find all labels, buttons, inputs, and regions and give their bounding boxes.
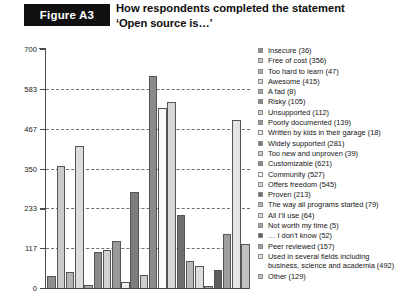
legend-item-label: Widely supported (281) (268, 139, 344, 148)
y-axis-label: 700 (24, 45, 37, 54)
legend-item-label: Awesome (415) (268, 77, 320, 86)
legend-swatch-icon (258, 182, 263, 187)
legend-item: … I don’t know (52) (258, 231, 399, 240)
legend-swatch-icon (258, 161, 263, 166)
legend-item-label: All I’ll use (64) (268, 211, 314, 220)
bar (84, 285, 93, 288)
y-axis-tick (40, 49, 46, 50)
legend-item: All I’ll use (64) (258, 211, 399, 220)
bar (94, 252, 103, 288)
legend-swatch-icon (258, 69, 263, 74)
legend-item-label: Free of cost (356) (268, 56, 326, 65)
legend-item-label: Unsupported (112) (268, 108, 329, 117)
figure-title-line-1: How respondents completed the statement (116, 1, 394, 16)
legend-item: Widely supported (281) (258, 139, 399, 148)
legend-item: Not worth my time (5) (258, 221, 399, 230)
legend-swatch-icon (258, 274, 263, 279)
bar (140, 275, 149, 288)
legend-item: Proven (213) (258, 190, 399, 199)
bar (177, 215, 186, 288)
legend-swatch-icon (258, 192, 263, 197)
legend-item-label: Written by kids in their garage (18) (268, 128, 381, 137)
legend-item: Other (129) (258, 272, 399, 281)
legend-item: Community (527) (258, 170, 399, 179)
chart-legend: Insecure (36)Free of cost (356)Too hard … (258, 46, 399, 282)
legend-item: Free of cost (356) (258, 56, 399, 65)
legend-swatch-icon (258, 244, 263, 249)
y-axis-tick (40, 288, 46, 289)
legend-swatch-icon (258, 172, 263, 177)
legend-item-label: Other (129) (268, 272, 306, 281)
legend-item: Too hard to learn (47) (258, 67, 399, 76)
legend-item: Written by kids in their garage (18) (258, 128, 399, 137)
legend-item: Too new and unproven (39) (258, 149, 399, 158)
legend-swatch-icon (258, 213, 263, 218)
legend-swatch-icon (258, 202, 263, 207)
legend-swatch-icon (258, 151, 263, 156)
legend-item-label: Not worth my time (5) (268, 221, 339, 230)
bar (186, 261, 195, 288)
legend-item: Risky (105) (258, 97, 399, 106)
legend-item-label: Too new and unproven (39) (268, 149, 358, 158)
legend-swatch-icon (258, 48, 263, 53)
figure-number-badge: Figure A3 (24, 4, 110, 26)
bar (195, 266, 204, 288)
y-axis-tick (40, 129, 46, 130)
legend-item: A fad (8) (258, 87, 399, 96)
legend-swatch-icon (258, 254, 263, 259)
legend-item-label: … I don’t know (52) (268, 231, 332, 240)
y-axis-label: 117 (25, 244, 37, 253)
bar (130, 192, 139, 288)
legend-item-label: The way all programs started (79) (268, 200, 379, 209)
legend-swatch-icon (258, 89, 263, 94)
legend-item-label: Insecure (36) (268, 46, 312, 55)
y-axis-tick (40, 89, 46, 90)
y-axis-label: 0 (33, 284, 37, 293)
legend-item-label: Proven (213) (268, 190, 311, 199)
legend-swatch-icon (258, 120, 263, 125)
bar (204, 286, 213, 288)
y-axis-tick (40, 208, 46, 209)
bar (112, 241, 121, 288)
legend-item: Peer reviewed (157) (258, 242, 399, 251)
bar (103, 250, 112, 288)
bar (232, 120, 241, 288)
figure-header: Figure A3 How respondents completed the … (0, 0, 399, 40)
legend-item: Customizable (621) (258, 159, 399, 168)
legend-swatch-icon (258, 110, 263, 115)
y-axis-tick (40, 169, 46, 170)
legend-item-label: Used in several fields including busines… (268, 252, 399, 271)
legend-item: Poorly documented (139) (258, 118, 399, 127)
bar (121, 282, 130, 288)
bar (149, 76, 158, 288)
legend-swatch-icon (258, 99, 263, 104)
legend-item: The way all programs started (79) (258, 200, 399, 209)
legend-item: Awesome (415) (258, 77, 399, 86)
plot-area: 0117233350467583700 (45, 49, 250, 289)
legend-item-label: Community (527) (268, 170, 325, 179)
bar (223, 234, 232, 288)
legend-swatch-icon (258, 130, 263, 135)
bar-series (47, 49, 250, 288)
legend-item-label: Risky (105) (268, 97, 305, 106)
y-axis-label: 233 (24, 204, 37, 213)
legend-swatch-icon (258, 79, 263, 84)
legend-swatch-icon (258, 223, 263, 228)
bar (158, 108, 167, 288)
bar (75, 146, 84, 288)
legend-item-label: Offers freedom (545) (268, 180, 336, 189)
legend-item: Used in several fields including busines… (258, 252, 399, 271)
bar (57, 166, 66, 288)
bar (167, 102, 176, 288)
bar (214, 270, 223, 288)
y-axis-label: 467 (24, 124, 37, 133)
bar (241, 244, 250, 288)
legend-item-label: A fad (8) (268, 87, 296, 96)
legend-item-label: Peer reviewed (157) (268, 242, 335, 251)
y-axis-label: 350 (24, 164, 37, 173)
y-axis-tick (40, 248, 46, 249)
legend-swatch-icon (258, 58, 263, 63)
figure-title-line-2: ‘Open source is…’ (116, 16, 394, 31)
legend-item-label: Poorly documented (139) (268, 118, 351, 127)
legend-item: Offers freedom (545) (258, 180, 399, 189)
